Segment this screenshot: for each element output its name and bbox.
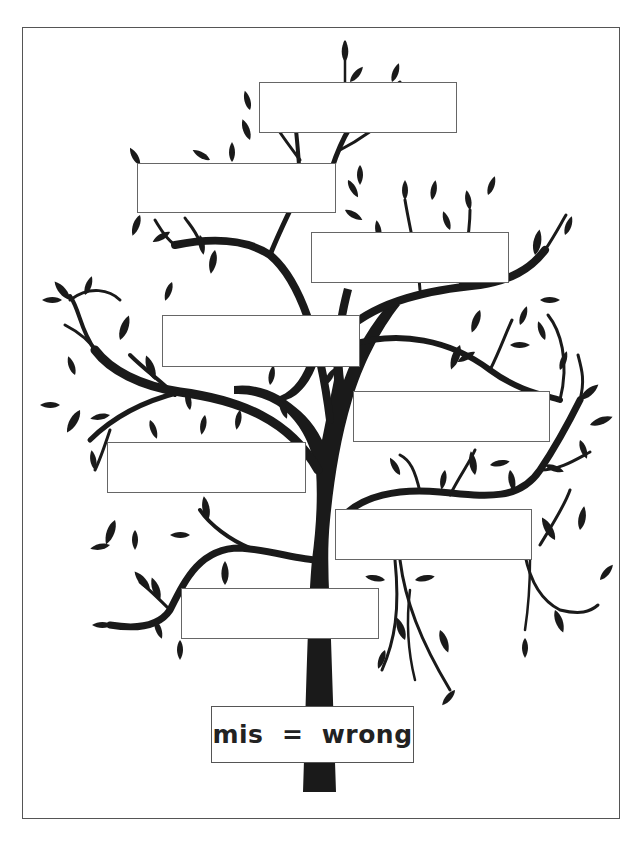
- word-box-6[interactable]: [107, 442, 306, 493]
- word-box-7[interactable]: [335, 509, 532, 560]
- word-box-8[interactable]: [181, 588, 379, 639]
- word-box-1[interactable]: [259, 82, 457, 133]
- word-box-2[interactable]: [137, 163, 336, 213]
- word-box-4[interactable]: [162, 315, 360, 367]
- word-box-3[interactable]: [311, 232, 509, 283]
- root-word-label: mis = wrong: [212, 720, 412, 749]
- word-box-5[interactable]: [353, 391, 550, 442]
- root-word-box: mis = wrong: [211, 706, 414, 763]
